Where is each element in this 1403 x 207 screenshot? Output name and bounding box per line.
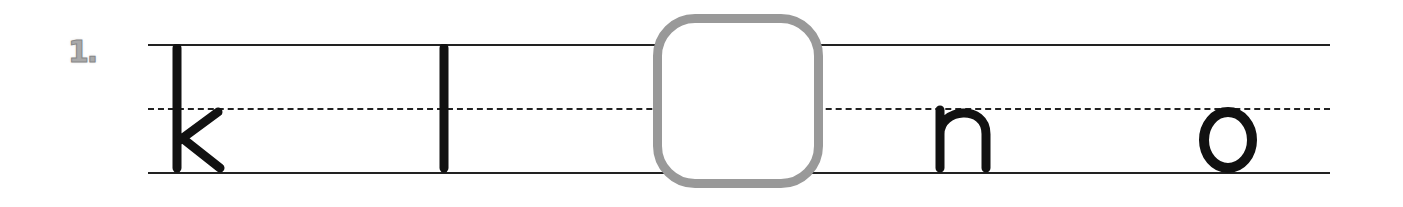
letter-n xyxy=(932,104,996,174)
answer-blank-box[interactable] xyxy=(653,14,823,188)
letter-k xyxy=(168,44,228,174)
letter-l xyxy=(434,44,454,174)
exercise-number: 1. xyxy=(68,34,96,69)
letter-o xyxy=(1196,106,1260,176)
